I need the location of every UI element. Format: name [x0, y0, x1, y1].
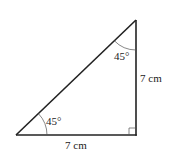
angle-label-bottom-left: 45°	[46, 115, 61, 127]
side-label-base: 7 cm	[65, 139, 87, 151]
side-label-vertical: 7 cm	[140, 72, 162, 84]
hypotenuse	[16, 20, 136, 135]
right-angle-marker	[129, 128, 136, 135]
angle-arc-top	[114, 41, 136, 50]
triangle-diagram: 45° 45° 7 cm 7 cm	[0, 0, 171, 157]
angle-label-top: 45°	[114, 50, 129, 62]
